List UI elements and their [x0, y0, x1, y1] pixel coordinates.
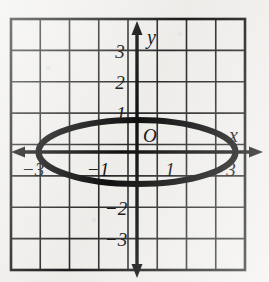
- x-axis-name-label: x: [228, 124, 238, 146]
- x-axis-arrow-left-icon: [11, 147, 25, 158]
- y-axis: [132, 21, 143, 278]
- grid-lines: [11, 19, 245, 270]
- y-tick-label-2: 2: [115, 72, 125, 93]
- graph-figure: y x O 3 2 1 −2 −3 −3 −1 1 3: [0, 0, 269, 282]
- coordinate-plane: y x O 3 2 1 −2 −3 −3 −1 1 3: [0, 0, 269, 282]
- x-axis-arrow-right-icon: [249, 147, 263, 158]
- x-tick-label-1: 1: [165, 159, 175, 180]
- x-tick-label-minus-3: −3: [22, 159, 44, 180]
- y-axis-arrow-up-icon: [132, 21, 143, 35]
- x-tick-label-minus-1: −1: [87, 159, 109, 180]
- y-axis-name-label: y: [145, 26, 156, 49]
- y-tick-label-minus-3: −3: [105, 229, 127, 250]
- origin-label: O: [143, 125, 157, 146]
- y-tick-label-3: 3: [114, 41, 125, 62]
- y-tick-label-minus-2: −2: [105, 198, 128, 219]
- y-tick-label-1: 1: [116, 103, 126, 124]
- x-tick-label-3: 3: [225, 159, 236, 180]
